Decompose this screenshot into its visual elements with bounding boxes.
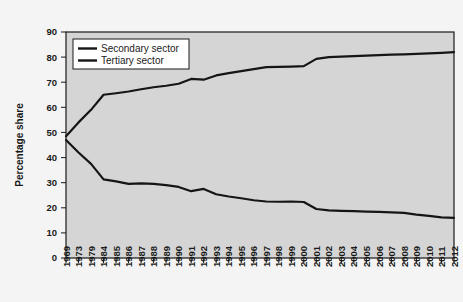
y-tick-label: 0 <box>52 252 57 263</box>
x-tick-label: 1993 <box>211 246 222 267</box>
x-tick-label: 1998 <box>273 246 284 267</box>
x-tick-label: 1989 <box>161 246 172 267</box>
x-tick-label: 1984 <box>98 245 109 267</box>
x-tick-label: 1986 <box>123 246 134 267</box>
x-tick-label: 1987 <box>136 246 147 267</box>
line-chart: 0 10 20 30 40 50 60 70 80 90 Percentage … <box>0 0 463 302</box>
y-tick-label: 40 <box>46 152 57 163</box>
x-tick-label: 1994 <box>223 245 234 267</box>
x-tick-label: 1995 <box>236 245 247 267</box>
x-tick-label: 2003 <box>336 246 347 267</box>
x-tick-label: 1990 <box>173 246 184 267</box>
chart-figure: 0 10 20 30 40 50 60 70 80 90 Percentage … <box>0 0 463 302</box>
x-tick-label: 2005 <box>361 245 372 267</box>
y-tick-label: 10 <box>46 227 57 238</box>
y-tick-label: 90 <box>46 26 57 37</box>
x-tick-label: 2006 <box>374 246 385 267</box>
x-tick-label: 2001 <box>311 245 322 267</box>
y-tick-label: 70 <box>46 77 57 88</box>
x-tick-label: 1999 <box>286 246 297 267</box>
y-tick-label: 30 <box>46 177 57 188</box>
x-tick-label: 2008 <box>399 246 410 267</box>
x-tick-label: 2002 <box>323 246 334 267</box>
x-tick-label: 2010 <box>424 246 435 267</box>
legend-label-tertiary-sector: Tertiary sector <box>101 55 164 66</box>
x-tick-label: 1997 <box>261 246 272 267</box>
y-tick-label: 80 <box>46 52 57 63</box>
x-tick-label: 1985 <box>111 245 122 267</box>
x-tick-label: 1991 <box>186 245 197 267</box>
x-tick-label: 2000 <box>298 246 309 267</box>
x-tick-label: 2009 <box>411 246 422 267</box>
y-axis-title: Percentage share <box>14 103 25 187</box>
y-tick-label: 60 <box>46 102 57 113</box>
legend-label-secondary-sector: Secondary sector <box>101 43 179 54</box>
x-tick-label: 2004 <box>348 245 359 267</box>
x-axis-tick-labels: 1969197319791984198519861987198819891990… <box>61 245 460 267</box>
x-tick-label: 2011 <box>436 246 447 267</box>
y-tick-label: 20 <box>46 202 57 213</box>
y-tick-label: 50 <box>46 127 57 138</box>
x-tick-label: 1992 <box>198 246 209 267</box>
x-tick-label: 1973 <box>73 246 84 267</box>
x-tick-label: 1988 <box>148 246 159 267</box>
x-tick-label: 1979 <box>86 246 97 267</box>
x-tick-label: 2007 <box>386 246 397 267</box>
chart-legend: Secondary sector Tertiary sector <box>73 39 189 69</box>
x-tick-label: 1996 <box>248 246 259 267</box>
